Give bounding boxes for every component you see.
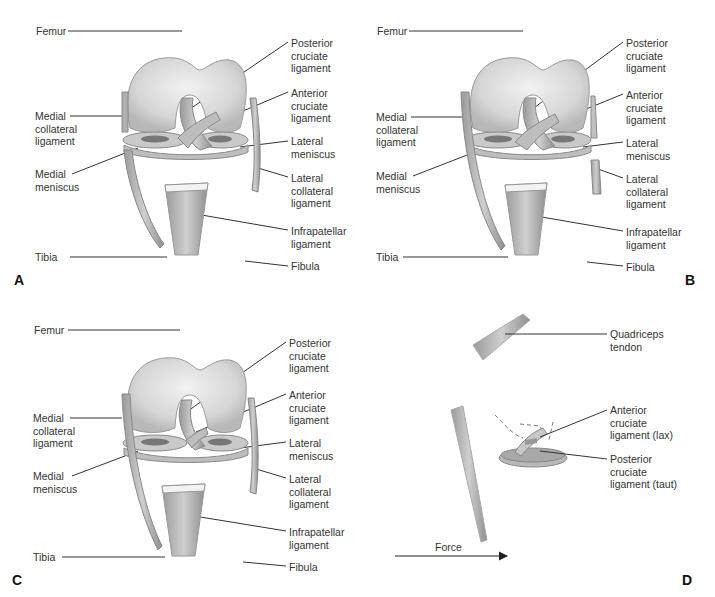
label-femur: Femur <box>34 324 64 337</box>
panel-b: Femur Posterior cruciate ligament Anteri… <box>355 0 715 298</box>
panel-letter-a: A <box>14 272 24 288</box>
label-pcl: Posterior cruciate ligament <box>291 37 333 75</box>
label-fibula: Fibula <box>289 561 318 574</box>
label-lateral-meniscus: Lateral meniscus <box>626 137 670 162</box>
panel-letter-d: D <box>682 572 692 588</box>
label-quadriceps-tendon: Quadriceps tendon <box>610 328 664 353</box>
label-medial-meniscus: Medial meniscus <box>33 470 77 495</box>
label-femur: Femur <box>377 25 407 38</box>
label-force: Force <box>435 541 462 554</box>
label-medial-meniscus: Medial meniscus <box>376 170 420 195</box>
label-pcl: Posterior cruciate ligament <box>626 37 668 75</box>
label-pcl: Posterior cruciate ligament <box>289 337 331 375</box>
label-mcl: Medial collateral ligament <box>35 110 77 148</box>
label-acl: Anterior cruciate ligament <box>626 89 666 127</box>
panel-letter-b: B <box>685 272 695 288</box>
label-tibia: Tibia <box>33 551 55 564</box>
panel-c: Femur Posterior cruciate ligament Anteri… <box>0 300 357 597</box>
label-femur: Femur <box>36 25 66 38</box>
label-mcl: Medial collateral ligament <box>33 412 75 450</box>
panel-d: Quadriceps tendon Anterior cruciate liga… <box>355 300 715 597</box>
label-fibula: Fibula <box>626 261 655 274</box>
label-infrapatellar: Infrapatellar ligament <box>289 526 344 551</box>
label-acl: Anterior cruciate ligament <box>291 87 331 125</box>
label-lateral-meniscus: Lateral meniscus <box>289 437 333 462</box>
panel-letter-c: C <box>12 572 22 588</box>
label-lcl: Lateral collateral ligament <box>289 473 331 511</box>
label-infrapatellar: Infrapatellar ligament <box>291 225 346 250</box>
label-lateral-meniscus: Lateral meniscus <box>291 135 335 160</box>
panel-a: Femur Posterior cruciate ligament Anteri… <box>0 0 357 298</box>
label-infrapatellar: Infrapatellar ligament <box>626 226 681 251</box>
label-mcl: Medial collateral ligament <box>376 111 418 149</box>
label-tibia: Tibia <box>376 251 398 264</box>
label-acl: Anterior cruciate ligament <box>289 389 329 427</box>
label-medial-meniscus: Medial meniscus <box>35 168 79 193</box>
label-tibia: Tibia <box>35 251 57 264</box>
label-pcl-taut: Posterior cruciate ligament (taut) <box>610 453 677 491</box>
label-lcl: Lateral collateral ligament <box>291 172 333 210</box>
label-lcl: Lateral collateral ligament <box>626 173 668 211</box>
label-fibula: Fibula <box>291 260 320 273</box>
label-acl-lax: Anterior cruciate ligament (lax) <box>610 404 673 442</box>
